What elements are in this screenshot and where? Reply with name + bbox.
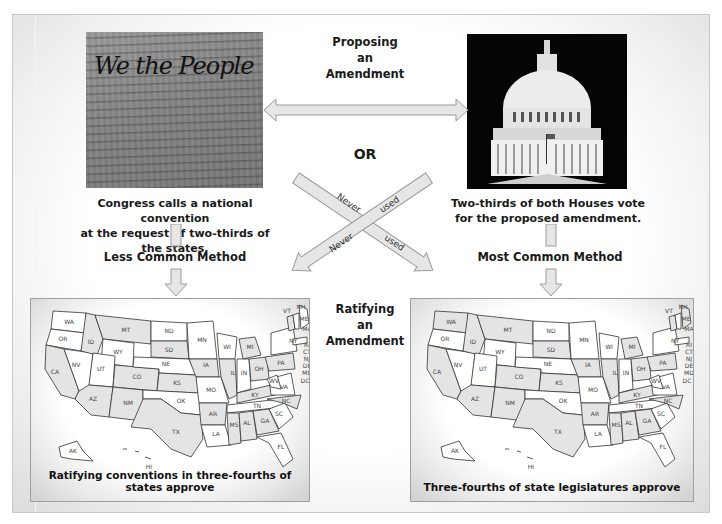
svg-text:IA: IA <box>203 361 210 368</box>
svg-text:MI: MI <box>247 343 254 350</box>
svg-text:NC: NC <box>664 397 673 404</box>
svg-text:LA: LA <box>212 430 220 437</box>
svg-text:MS: MS <box>230 421 239 428</box>
svg-text:GA: GA <box>643 417 653 424</box>
most-common-method-label: Most Common Method <box>475 249 625 265</box>
svg-text:NY: NY <box>671 337 679 344</box>
svg-text:NV: NV <box>72 361 81 368</box>
svg-text:ME: ME <box>300 315 309 322</box>
svg-text:DE: DE <box>303 362 309 369</box>
svg-text:RI: RI <box>304 341 309 348</box>
us-map-icon: WAORCA NVIDMT WYUTAZ CONMND SDNEKS OKTXM… <box>31 299 309 474</box>
svg-text:KY: KY <box>251 391 259 398</box>
svg-text:TX: TX <box>553 428 562 435</box>
svg-text:NE: NE <box>544 360 552 367</box>
capitol-dome-icon <box>467 34 627 189</box>
svg-text:NE: NE <box>162 360 170 367</box>
svg-text:IN: IN <box>241 369 247 376</box>
svg-text:WA: WA <box>64 318 75 325</box>
svg-text:CO: CO <box>133 373 142 380</box>
svg-text:AZ: AZ <box>471 395 479 402</box>
svg-text:OK: OK <box>177 397 187 404</box>
svg-text:MI: MI <box>629 343 636 350</box>
or-label: OR <box>340 146 390 162</box>
svg-text:CA: CA <box>433 368 442 375</box>
svg-text:DC: DC <box>301 377 309 384</box>
svg-text:DC: DC <box>683 377 692 384</box>
svg-text:VT: VT <box>283 307 291 314</box>
svg-text:SD: SD <box>165 346 174 353</box>
svg-text:MN: MN <box>197 336 207 343</box>
svg-text:MO: MO <box>588 386 598 393</box>
svg-text:NH: NH <box>679 303 688 310</box>
svg-text:SC: SC <box>275 410 283 417</box>
svg-text:MT: MT <box>504 326 513 333</box>
svg-text:FL: FL <box>660 443 667 450</box>
double-arrow <box>262 96 470 124</box>
svg-text:ND: ND <box>164 327 173 334</box>
svg-text:TN: TN <box>252 402 261 409</box>
congress-vote-caption: Two-thirds of both Houses vote for the p… <box>450 196 646 226</box>
svg-text:MO: MO <box>206 386 216 393</box>
svg-text:CT: CT <box>303 348 309 355</box>
svg-text:IL: IL <box>612 369 618 376</box>
legislatures-map-caption: Three-fourths of state legislatures appr… <box>411 481 693 493</box>
svg-text:MT: MT <box>122 326 131 333</box>
svg-text:ID: ID <box>88 338 95 345</box>
proposing-heading: Proposing an Amendment <box>325 34 405 82</box>
svg-text:AK: AK <box>451 447 460 454</box>
svg-text:ID: ID <box>470 338 477 345</box>
svg-text:OR: OR <box>59 335 68 342</box>
svg-text:KS: KS <box>555 379 563 386</box>
svg-text:OH: OH <box>636 365 645 372</box>
svg-text:IL: IL <box>230 369 236 376</box>
svg-text:RI: RI <box>686 341 692 348</box>
svg-text:WY: WY <box>113 348 123 355</box>
conventions-map-panel: WAORCA NVIDMT WYUTAZ CONMND SDNEKS OKTXM… <box>30 298 310 502</box>
svg-text:IA: IA <box>585 361 592 368</box>
svg-text:WV: WV <box>651 377 662 384</box>
svg-text:MA: MA <box>302 325 309 332</box>
svg-text:FL: FL <box>278 443 285 450</box>
svg-text:AZ: AZ <box>89 395 97 402</box>
less-common-method-label: Less Common Method <box>100 249 250 265</box>
svg-text:CA: CA <box>51 368 60 375</box>
svg-text:MN: MN <box>579 336 589 343</box>
svg-text:OK: OK <box>559 397 569 404</box>
svg-text:TN: TN <box>634 402 643 409</box>
svg-text:LA: LA <box>594 430 602 437</box>
svg-text:KY: KY <box>633 391 641 398</box>
svg-text:SC: SC <box>657 410 665 417</box>
conventions-map-caption: Ratifying conventions in three-fourths o… <box>31 469 309 493</box>
svg-text:MD: MD <box>302 369 309 376</box>
svg-text:UT: UT <box>97 365 105 372</box>
svg-text:AR: AR <box>591 410 599 417</box>
svg-text:NC: NC <box>282 397 291 404</box>
svg-text:MD: MD <box>684 369 693 376</box>
svg-text:AL: AL <box>243 419 251 426</box>
svg-text:ND: ND <box>546 327 555 334</box>
svg-text:MA: MA <box>684 325 693 332</box>
svg-text:NH: NH <box>297 303 306 310</box>
svg-text:AR: AR <box>209 410 217 417</box>
svg-text:NV: NV <box>454 361 463 368</box>
svg-text:WV: WV <box>269 377 280 384</box>
svg-text:TX: TX <box>171 428 180 435</box>
svg-text:VA: VA <box>280 383 289 390</box>
svg-text:CO: CO <box>515 373 524 380</box>
svg-text:NY: NY <box>289 337 297 344</box>
legislatures-map-panel: WAORCA NVIDMT WYUTAZ CONMND SDNEKS OKTXM… <box>410 298 694 502</box>
svg-text:SD: SD <box>547 346 556 353</box>
svg-text:WA: WA <box>446 318 457 325</box>
capitol-photo <box>467 34 627 189</box>
svg-text:UT: UT <box>479 365 487 372</box>
svg-text:AK: AK <box>69 447 78 454</box>
svg-text:VT: VT <box>665 307 673 314</box>
svg-text:PA: PA <box>659 359 667 366</box>
ratifying-heading: Ratifying an Amendment <box>325 301 405 349</box>
svg-text:KS: KS <box>173 379 181 386</box>
svg-text:PA: PA <box>277 359 285 366</box>
svg-text:ME: ME <box>682 315 691 322</box>
svg-text:OH: OH <box>254 365 263 372</box>
svg-text:DE: DE <box>685 362 693 369</box>
